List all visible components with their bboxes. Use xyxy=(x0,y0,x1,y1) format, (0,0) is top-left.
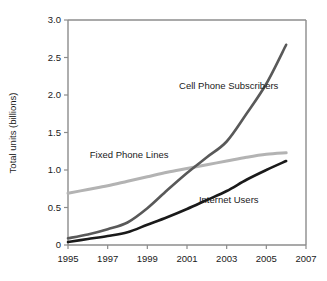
y-tick-label: 2.5 xyxy=(48,52,61,63)
x-tick-label: 2001 xyxy=(176,253,197,264)
axis-group xyxy=(68,20,306,245)
y-tick-label: 3.0 xyxy=(48,14,61,25)
y-tick-label: 0 xyxy=(56,239,61,250)
series-label-fixed-phone-lines: Fixed Phone Lines xyxy=(90,149,169,160)
x-tick-label: 1999 xyxy=(137,253,158,264)
x-tick-label: 2007 xyxy=(295,253,316,264)
data-series-lines xyxy=(68,45,286,242)
x-tick-label: 1995 xyxy=(57,253,78,264)
y-tick-label: 2.0 xyxy=(48,89,61,100)
data-series-labels: Cell Phone SubscribersFixed Phone LinesI… xyxy=(90,80,279,205)
series-label-internet-users: Internet Users xyxy=(199,194,259,205)
y-tick-label: 1.5 xyxy=(48,127,61,138)
series-label-cell-phone-subscribers: Cell Phone Subscribers xyxy=(179,80,279,91)
chart-container: 00.51.01.52.02.53.0 19951997199920012003… xyxy=(0,0,327,281)
x-tick-label: 2005 xyxy=(256,253,277,264)
x-tick-label: 1997 xyxy=(97,253,118,264)
y-tick-label: 0.5 xyxy=(48,202,61,213)
y-axis-title: Total units (billions) xyxy=(7,93,18,174)
x-tick-label: 2003 xyxy=(216,253,237,264)
y-axis-tick-labels: 00.51.01.52.02.53.0 xyxy=(48,14,61,250)
x-axis-tick-labels: 1995199719992001200320052007 xyxy=(57,253,316,264)
line-chart: 00.51.01.52.02.53.0 19951997199920012003… xyxy=(0,0,327,281)
series-line-cell-phone-subscribers xyxy=(68,45,286,239)
y-tick-label: 1.0 xyxy=(48,164,61,175)
